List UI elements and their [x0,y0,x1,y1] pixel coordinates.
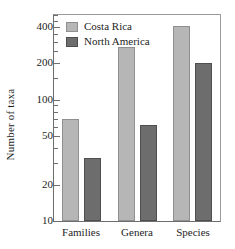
y-axis-tick-label: 20 [42,178,53,190]
legend-label-north-america: North America [84,36,150,47]
x-axis-tick-label-families: Families [53,226,109,244]
y-axis-minor-tick [54,112,58,113]
chart-legend: Costa Rica North America [66,20,150,48]
y-axis-minor-tick [54,119,58,120]
y-axis-minor-tick [54,163,58,164]
y-axis-minor-tick [54,105,58,106]
y-axis-major-tick [54,136,60,137]
y-axis-minor-tick [54,34,58,35]
y-axis-minor-tick [54,51,58,52]
bar-species-costa-rica [173,26,190,221]
legend-swatch-north-america [66,37,78,47]
y-axis-tick-label: 200 [37,56,54,68]
y-axis-major-tick [54,221,60,222]
legend-item-north-america: North America [66,35,150,48]
y-axis-tick-label: 100 [37,93,54,105]
y-axis-title: Number of taxa [0,0,20,249]
y-axis-minor-tick [54,127,58,128]
y-axis-tick-label: 10 [42,214,53,226]
x-axis-tick-label-species: Species [165,226,221,244]
x-axis-tick-labels: FamiliesGeneraSpecies [53,226,221,244]
y-axis-minor-tick [54,78,58,79]
y-axis-tick-label: 400 [37,20,54,32]
legend-swatch-costa-rica [66,22,78,32]
plot-area: Costa Rica North America [53,14,221,222]
y-axis-major-tick [54,185,60,186]
legend-label-costa-rica: Costa Rica [84,21,132,32]
y-axis-minor-tick [54,148,58,149]
bar-families-costa-rica [62,119,79,221]
bar-families-north-america [84,158,101,221]
y-axis-major-tick [54,63,60,64]
x-axis-tick-label-genera: Genera [109,226,165,244]
bar-genera-north-america [140,125,157,221]
y-axis-tick-label: 50 [42,129,53,141]
bar-species-north-america [195,63,212,221]
bar-chart-figure: Number of taxa 102050100200400 Costa Ric… [0,0,235,249]
y-axis-minor-tick [54,42,58,43]
bar-genera-costa-rica [118,47,135,221]
legend-item-costa-rica: Costa Rica [66,20,150,33]
y-axis-major-tick [54,100,60,101]
y-axis-minor-tick [54,21,58,22]
y-axis-minor-tick [54,15,58,16]
y-axis-major-tick [54,27,60,28]
